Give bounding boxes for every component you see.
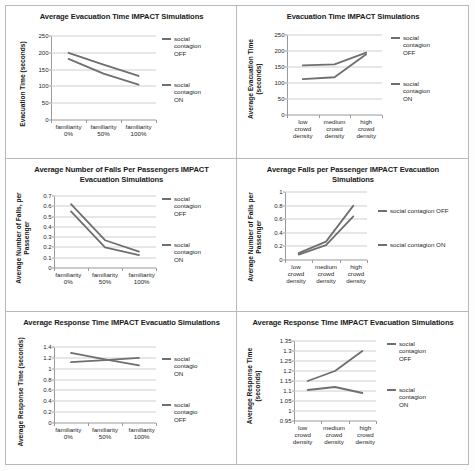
- y-axis-title: Average Response Time (seconds): [246, 337, 261, 435]
- legend-label: social contagion OFF: [403, 34, 430, 56]
- y-axis-title: Average Number of Falls per Passenger: [247, 184, 262, 290]
- legend-label: social contagio OFF: [174, 401, 197, 423]
- y-tick-label: 0.8: [274, 203, 285, 209]
- chart-panel-falls-density: Average Falls per Passenger IMPACT Evacu…: [236, 158, 469, 312]
- x-tick-label: familiarity 100%: [121, 123, 156, 137]
- series-line: [71, 358, 139, 362]
- chart-body: Average Number of Falls, per Passenger 0…: [10, 162, 233, 309]
- legend-item: social contagion OFF: [162, 195, 201, 217]
- y-tick-label: 1.05: [280, 398, 294, 404]
- x-axis-labels: familiarity 0%familiarity 50%familiarity…: [50, 426, 160, 440]
- y-tick-label: 0.4: [43, 398, 54, 404]
- legend-line-swatch-icon: [387, 343, 396, 345]
- legend-line-swatch-icon: [162, 38, 171, 40]
- y-tick-label: 0.6: [43, 203, 54, 209]
- plot-area: 00.10.20.30.40.50.60.7: [54, 196, 156, 268]
- x-tick-label: familiarity 0%: [51, 123, 86, 137]
- series-lines: [294, 341, 376, 421]
- y-tick-label: 0.8: [43, 377, 54, 383]
- y-tick-label: 1.35: [280, 338, 294, 344]
- y-axis-title: Average Number of Falls, per Passenger: [15, 181, 30, 295]
- x-tick-label: low crowd density: [287, 118, 319, 140]
- x-tick-label: high crowd density: [350, 118, 382, 140]
- series-lines: [54, 196, 156, 268]
- y-tick-label: 0.3: [43, 234, 54, 240]
- legend-label: social contagion ON: [174, 81, 201, 103]
- y-tick-label: 0.4: [274, 230, 285, 236]
- y-tick-label: 150: [38, 67, 51, 73]
- legend-line-swatch-icon: [391, 83, 400, 85]
- y-tick-label: 0.2: [43, 244, 54, 250]
- chart-grid: Average Evacuation Time IMPACT Simulatio…: [6, 6, 469, 465]
- y-tick-label: 250: [38, 33, 51, 39]
- legend-line-swatch-icon: [378, 244, 387, 246]
- x-tick-label: medium crowd density: [311, 263, 341, 285]
- x-tick-label: high crowd density: [350, 424, 381, 446]
- series-line: [71, 204, 139, 251]
- chart-panel-evacuation-time-familiarity: Average Evacuation Time IMPACT Simulatio…: [5, 5, 237, 159]
- legend-label: social contagion ON: [390, 241, 445, 248]
- series-lines: [51, 36, 156, 120]
- chart-panel-response-time-density: Average Response Time IMPACT Evacuation …: [236, 311, 469, 465]
- legend-label: social contagion ON: [403, 80, 430, 102]
- chart-area: Average Number of Falls Per Passengers I…: [10, 162, 233, 309]
- x-tick-label: familiarity 0%: [50, 271, 87, 285]
- plot-area: 050100150200250: [51, 36, 156, 120]
- legend-item: social contagion OFF: [387, 340, 426, 362]
- y-tick-label: 0.4: [43, 224, 54, 230]
- y-tick-label: 1.3: [283, 348, 294, 354]
- chart-body: Evacuation Time (seconds) 05010015020025…: [10, 9, 233, 156]
- legend-item: social contagio ON: [162, 355, 197, 377]
- y-tick-label: 1.15: [280, 378, 294, 384]
- legend-label: social contagion OFF: [174, 195, 201, 217]
- series-line: [303, 53, 366, 66]
- chart-area: Average Response Time IMPACT Evacuation …: [241, 315, 465, 462]
- x-axis-labels: low crowd densitymedium crowd densityhig…: [287, 118, 382, 140]
- legend-item: social contagion ON: [378, 241, 445, 248]
- y-tick-label: 0.1: [43, 255, 54, 261]
- y-tick-label: 1.2: [283, 368, 294, 374]
- y-tick-label: 1.25: [280, 358, 294, 364]
- chart-panel-falls-familiarity: Average Number of Falls Per Passengers I…: [5, 158, 237, 312]
- legend-item: social contagion OFF: [391, 34, 430, 56]
- series-line: [308, 387, 363, 393]
- y-tick-label: 1.2: [43, 355, 54, 361]
- figure-sheet: Average Evacuation Time IMPACT Simulatio…: [0, 0, 475, 471]
- y-axis-title: Evacuation Time (seconds): [19, 31, 27, 137]
- legend-item: social contagion ON: [162, 81, 201, 103]
- chart-panel-response-time-familiarity: Average Response Time IMPACT Evacuatio S…: [5, 311, 237, 465]
- legend-line-swatch-icon: [162, 198, 171, 200]
- y-tick-label: 1.4: [43, 344, 54, 350]
- x-tick-label: medium crowd density: [318, 424, 349, 446]
- legend-line-swatch-icon: [162, 358, 171, 360]
- y-tick-label: 100: [38, 83, 51, 89]
- x-axis-labels: low crowd densitymedium crowd densityhig…: [287, 424, 381, 446]
- x-tick-label: familiarity 0%: [50, 426, 87, 440]
- legend-item: social contagion ON: [387, 386, 426, 408]
- x-tick-label: familiarity 50%: [87, 271, 124, 285]
- legend-item: social contagion ON: [391, 80, 430, 102]
- legend-line-swatch-icon: [391, 37, 400, 39]
- y-axis-title: Average Evacuation Time (seconds): [247, 31, 262, 127]
- x-tick-label: low crowd density: [281, 263, 311, 285]
- legend-label: social contagion OFF: [174, 35, 201, 57]
- legend-line-swatch-icon: [162, 404, 171, 406]
- x-axis-labels: low crowd densitymedium crowd densityhig…: [281, 263, 371, 285]
- series-lines: [54, 347, 156, 423]
- chart-body: Average Number of Falls per Passenger 00…: [241, 162, 465, 309]
- x-tick-label: familiarity 50%: [87, 426, 124, 440]
- y-tick-label: 200: [274, 48, 287, 54]
- chart-panel-evacuation-time-density: Evacuation Time IMPACT Simulations Avera…: [236, 5, 469, 159]
- y-axis-title: Average Response Time (seconds): [17, 334, 25, 450]
- series-line: [69, 53, 139, 76]
- y-tick-label: 50: [42, 100, 51, 106]
- legend-label: social contagion OFF: [399, 340, 426, 362]
- plot-area: 00.20.40.60.811.21.4: [54, 347, 156, 423]
- legend-line-swatch-icon: [162, 244, 171, 246]
- y-tick-label: 1.1: [283, 388, 294, 394]
- y-tick-label: 250: [274, 32, 287, 38]
- x-tick-label: medium crowd density: [319, 118, 351, 140]
- y-tick-label: 0.2: [274, 243, 285, 249]
- chart-body: Average Evacuation Time (seconds) 050100…: [241, 9, 465, 156]
- x-tick-label: familiarity 100%: [123, 426, 160, 440]
